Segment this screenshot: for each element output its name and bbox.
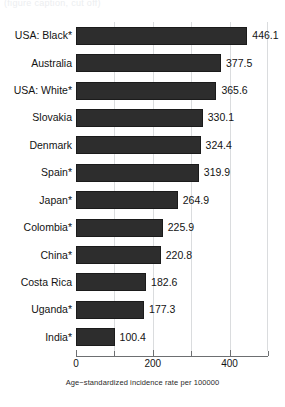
bar-row: USA: White*365.6	[76, 77, 268, 104]
bar-value-label: 264.9	[183, 187, 209, 214]
x-axis-line	[76, 356, 268, 357]
bar-row: India*100.4	[76, 324, 268, 351]
bar-row: Spain*319.9	[76, 159, 268, 186]
horizontal-bar-chart: USA: Black*446.1Australia377.5USA: White…	[0, 0, 285, 407]
bar-value-label: 100.4	[120, 324, 146, 351]
bar	[76, 301, 144, 319]
bar-value-label: 177.3	[149, 296, 175, 323]
category-label: Colombia*	[2, 214, 72, 241]
bar-value-label: 330.1	[208, 104, 234, 131]
bar-value-label: 446.1	[252, 22, 278, 49]
x-tick-label: 0	[73, 358, 79, 370]
bar-value-label: 377.5	[226, 49, 252, 76]
category-label: Spain*	[2, 159, 72, 186]
plot-area: USA: Black*446.1Australia377.5USA: White…	[76, 22, 268, 351]
category-label: India*	[2, 324, 72, 351]
bar-value-label: 319.9	[204, 159, 230, 186]
category-label: USA: Black*	[2, 22, 72, 49]
category-label: Uganda*	[2, 296, 72, 323]
category-label: Slovakia	[2, 104, 72, 131]
bar-row: Australia377.5	[76, 49, 268, 76]
bar	[76, 27, 247, 45]
category-label: Australia	[2, 49, 72, 76]
bar-row: Uganda*177.3	[76, 296, 268, 323]
bar-value-label: 220.8	[166, 241, 192, 268]
bar	[76, 191, 178, 209]
bar-value-label: 324.4	[206, 132, 232, 159]
x-tick-minor	[191, 351, 192, 356]
category-label: China*	[2, 241, 72, 268]
x-tick-minor	[114, 351, 115, 356]
bar	[76, 273, 146, 291]
x-axis-label: Age−standardized incidence rate per 1000…	[0, 378, 285, 388]
bar	[76, 54, 221, 72]
x-tick-label: 200	[144, 358, 161, 370]
bar	[76, 82, 216, 100]
bar-row: Slovakia330.1	[76, 104, 268, 131]
bar-row: Japan*264.9	[76, 187, 268, 214]
bar-row: Colombia*225.9	[76, 214, 268, 241]
bar-row: USA: Black*446.1	[76, 22, 268, 49]
bar-row: China*220.8	[76, 241, 268, 268]
bar	[76, 164, 199, 182]
bar-row: Denmark324.4	[76, 132, 268, 159]
bar	[76, 136, 201, 154]
bar	[76, 328, 115, 346]
category-label: Japan*	[2, 187, 72, 214]
bar-value-label: 225.9	[168, 214, 194, 241]
category-label: USA: White*	[2, 77, 72, 104]
x-tick-major	[230, 350, 231, 356]
bar	[76, 219, 163, 237]
x-tick-major	[153, 350, 154, 356]
bar-value-label: 182.6	[151, 269, 177, 296]
category-label: Costa Rica	[2, 269, 72, 296]
x-tick-label: 400	[221, 358, 238, 370]
category-label: Denmark	[2, 132, 72, 159]
bar	[76, 109, 203, 127]
bar-row: Costa Rica182.6	[76, 269, 268, 296]
x-tick-minor	[268, 351, 269, 356]
x-tick-major	[76, 350, 77, 356]
bar	[76, 246, 161, 264]
bar-value-label: 365.6	[221, 77, 247, 104]
